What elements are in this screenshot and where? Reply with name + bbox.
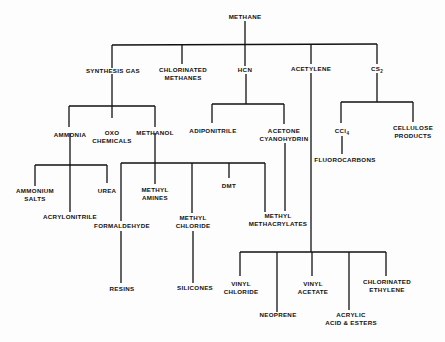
- methane-derivatives-tree: METHANE SYNTHESIS GAS CHLORINATEDMETHANE…: [0, 0, 445, 342]
- label-line-2: SALTS: [24, 195, 45, 202]
- node-methanol-label: METHANOL: [136, 129, 173, 136]
- node-hcn: HCN: [238, 66, 252, 74]
- node-acetylene-label: ACETYLENE: [291, 65, 331, 72]
- node-methane-label: METHANE: [229, 13, 262, 20]
- node-cellulose-products: CELLULOSEPRODUCTS: [393, 124, 433, 140]
- label-line-2: PRODUCTS: [394, 132, 431, 139]
- node-vinyl-chloride: VINYLCHLORIDE: [224, 280, 259, 296]
- node-acrylonitrile: ACRYLONITRILE: [43, 213, 97, 221]
- formula-main: CS: [371, 65, 380, 72]
- label-line-1: METHYL: [179, 214, 206, 221]
- label-line-2: ACID & ESTERS: [325, 319, 377, 326]
- label-line-1: CELLULOSE: [393, 124, 433, 131]
- label-line-2: CYANOHYDRIN: [260, 135, 309, 142]
- node-resins-label: RESINS: [110, 285, 135, 292]
- label-line-1: ACRYLIC: [336, 311, 365, 318]
- node-cs2: CS2: [371, 65, 383, 76]
- label-line-2: AMINES: [142, 194, 168, 201]
- label-line-2: CHEMICALS: [92, 137, 131, 144]
- node-formaldehyde: FORMALDEHYDE: [94, 222, 150, 230]
- label-line-1: METHYL: [141, 186, 168, 193]
- node-acetone-cyanohydrin: ACETONECYANOHYDRIN: [260, 127, 309, 143]
- label-line-2: ACETATE: [298, 288, 328, 295]
- node-urea: UREA: [98, 187, 117, 195]
- node-urea-label: UREA: [98, 187, 117, 194]
- node-ccl4: CCl4: [335, 127, 349, 138]
- node-methyl-chloride: METHYLCHLORIDE: [176, 214, 211, 230]
- node-resins: RESINS: [110, 285, 135, 293]
- label-line-2: METHACRYLATES: [249, 220, 308, 227]
- node-silicones: SILICONES: [177, 284, 213, 292]
- node-hcn-label: HCN: [238, 66, 252, 73]
- node-adiponitrile: ADIPONITRILE: [189, 127, 236, 135]
- node-dmt: DMT: [222, 182, 236, 190]
- label-line-1: CHLORINATED: [159, 66, 207, 73]
- formula-main: CCl: [335, 127, 347, 134]
- label-line-1: ACETONE: [268, 127, 300, 134]
- node-neoprene: NEOPRENE: [259, 311, 296, 319]
- node-fluorocarbons-label: FLUOROCARBONS: [314, 156, 375, 163]
- label-line-1: VINYL: [231, 280, 251, 287]
- node-chlorinated-ethylene: CHLORINATEDETHYLENE: [363, 278, 411, 294]
- node-silicones-label: SILICONES: [177, 284, 213, 291]
- node-chlorinated-methanes: CHLORINATEDMETHANES: [159, 66, 207, 82]
- label-line-2: METHANES: [164, 74, 201, 81]
- node-ammonia-label: AMMONIA: [54, 131, 86, 138]
- node-vinyl-acetate: VINYLACETATE: [298, 280, 328, 296]
- label-line-2: CHLORIDE: [224, 288, 259, 295]
- node-ammonium-salts: AMMONIUMSALTS: [16, 187, 54, 203]
- node-methane: METHANE: [229, 13, 262, 21]
- node-fluorocarbons: FLUOROCARBONS: [314, 156, 375, 164]
- formula-subscript: 4: [346, 131, 349, 136]
- node-acrylonitrile-label: ACRYLONITRILE: [43, 213, 97, 220]
- node-synthesis-gas: SYNTHESIS GAS: [86, 67, 140, 75]
- node-synthesis-gas-label: SYNTHESIS GAS: [86, 67, 140, 74]
- label-line-2: ETHYLENE: [369, 286, 404, 293]
- node-oxo-chemicals: OXOCHEMICALS: [92, 129, 131, 145]
- node-neoprene-label: NEOPRENE: [259, 311, 296, 318]
- node-acetylene: ACETYLENE: [291, 65, 331, 73]
- node-methyl-methacrylates: METHYLMETHACRYLATES: [249, 212, 308, 228]
- node-adiponitrile-label: ADIPONITRILE: [189, 127, 236, 134]
- label-line-1: VINYL: [303, 280, 323, 287]
- label-line-1: CHLORINATED: [363, 278, 411, 285]
- node-methyl-amines: METHYLAMINES: [141, 186, 168, 202]
- node-methanol: METHANOL: [136, 129, 173, 137]
- label-line-2: CHLORIDE: [176, 222, 211, 229]
- node-formaldehyde-label: FORMALDEHYDE: [94, 222, 150, 229]
- label-line-1: AMMONIUM: [16, 187, 54, 194]
- label-line-1: OXO: [105, 129, 120, 136]
- node-ammonia: AMMONIA: [54, 131, 86, 139]
- node-acrylic-acid-esters: ACRYLICACID & ESTERS: [325, 311, 377, 327]
- label-line-1: METHYL: [264, 212, 291, 219]
- node-dmt-label: DMT: [222, 182, 236, 189]
- formula-subscript: 2: [380, 69, 383, 74]
